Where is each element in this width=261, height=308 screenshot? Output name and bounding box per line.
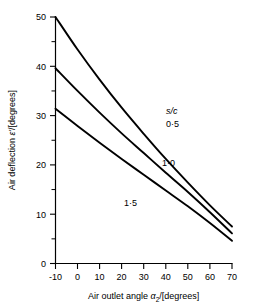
y-tick-label-40: 40 — [36, 62, 46, 72]
x-axis-title-post: /[degrees] — [159, 291, 199, 301]
x-tick-labels: -10 0 10 20 30 40 50 60 70 — [49, 272, 237, 282]
x-tick-label-30: 30 — [139, 272, 149, 282]
y-tick-label-10: 10 — [36, 210, 46, 220]
x-axis-title-pre: Air outlet angle — [88, 291, 151, 301]
curve-label-0-5: 0·5 — [166, 119, 179, 129]
chart-figure: 0 10 20 30 40 50 -10 0 10 20 30 40 50 60… — [0, 0, 261, 308]
x-tick-label-40: 40 — [161, 272, 171, 282]
x-axis-title: Air outlet angle α2/[degrees] — [88, 291, 199, 303]
y-axis-title: Air deflection ε'/[degrees] — [7, 90, 17, 190]
chart-background — [0, 0, 261, 308]
legend-title: s/c — [166, 106, 178, 116]
y-tick-label-20: 20 — [36, 160, 46, 170]
y-axis-title-post: /[degrees] — [7, 90, 17, 130]
x-tick-label-20: 20 — [117, 272, 127, 282]
x-tick-label-0: 0 — [75, 272, 80, 282]
x-tick-label-50: 50 — [183, 272, 193, 282]
chart-svg: 0 10 20 30 40 50 -10 0 10 20 30 40 50 60… — [0, 0, 261, 308]
x-tick-label-60: 60 — [205, 272, 215, 282]
x-tick-label-70: 70 — [227, 272, 237, 282]
curve-label-1-0: 1·0 — [162, 158, 175, 168]
y-tick-label-0: 0 — [41, 259, 46, 269]
y-axis-title-pre: Air deflection — [7, 136, 17, 191]
y-tick-label-30: 30 — [36, 111, 46, 121]
x-tick-label-10: 10 — [95, 272, 105, 282]
y-tick-label-50: 50 — [36, 12, 46, 22]
curve-label-1-5: 1·5 — [124, 198, 137, 208]
x-tick-label-minus10: -10 — [49, 272, 62, 282]
